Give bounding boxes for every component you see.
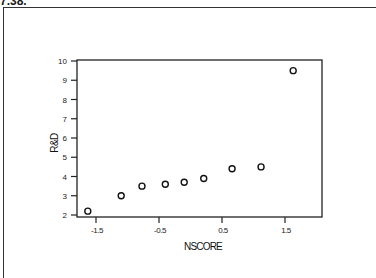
x-tick-label: 1.5 (281, 226, 292, 235)
data-point (258, 164, 264, 170)
y-tick-label: 7 (63, 115, 68, 124)
y-tick-label: 8 (63, 96, 68, 105)
y-tick-label: 5 (63, 153, 68, 162)
data-point (118, 193, 124, 199)
y-tick-label: 3 (63, 192, 68, 201)
x-tick-label: 0.5 (218, 226, 229, 235)
data-point (162, 181, 168, 187)
plot-area (77, 60, 322, 217)
y-tick-label: 6 (63, 134, 68, 143)
x-tick-label: -0.5 (154, 226, 167, 235)
data-point (290, 68, 296, 74)
data-point (201, 175, 207, 181)
x-axis-label: NSCORE (184, 241, 223, 252)
data-point (139, 183, 145, 189)
y-axis-label: R&D (49, 133, 60, 153)
x-tick-label: -1.5 (91, 226, 104, 235)
y-tick-label: 10 (58, 57, 67, 66)
data-point (229, 166, 235, 172)
y-tick-label: 2 (63, 211, 68, 220)
data-point (181, 179, 187, 185)
y-tick-label: 4 (63, 173, 68, 182)
y-tick-label: 9 (63, 76, 68, 85)
data-point (85, 208, 91, 214)
